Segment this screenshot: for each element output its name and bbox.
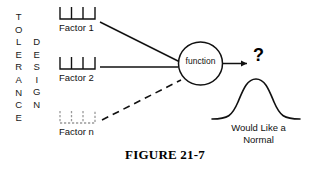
normal-caption-line-1: Would Like a [206,122,311,134]
tolerance-letter: L [16,36,21,49]
question-mark-label: ? [253,46,264,64]
normal-caption-line-2: Normal [206,134,311,146]
normal-curve-caption: Would Like a Normal [206,122,311,146]
factor-n-label: Factor n [59,126,94,137]
figure-caption: FIGURE 21-7 [110,147,220,163]
function-label: function [178,56,223,66]
design-letter: I [35,74,38,87]
design-letter: G [33,86,40,99]
design-letter: E [34,49,40,62]
factor-1-label: Factor 1 [59,22,94,33]
factor-2-symbol [60,57,95,69]
tolerance-letter: E [16,49,22,62]
tolerance-letter: T [16,11,22,24]
tolerance-letter: C [15,99,22,112]
design-letter: D [33,36,40,49]
tolerance-letter: E [16,112,22,125]
tolerance-letter: O [15,24,22,37]
connector-factor-1 [100,22,180,62]
bell-curve [212,79,300,119]
factor-n-symbol [60,111,95,123]
output-arrow [223,61,247,67]
design-letter: S [34,61,40,74]
connector-factor-n [102,80,181,120]
tolerance-label: T O L E R A N C E [15,11,22,124]
factor-1-symbol [60,7,95,19]
tolerance-letter: A [16,74,22,87]
design-label: D E S I G N [33,36,40,112]
tolerance-letter: N [15,87,22,100]
figure-21-7: T O L E R A N C E D E S I G N Factor 1 F… [0,0,315,172]
design-letter: N [33,99,40,112]
tolerance-letter: R [15,61,22,74]
factor-2-label: Factor 2 [59,72,94,83]
